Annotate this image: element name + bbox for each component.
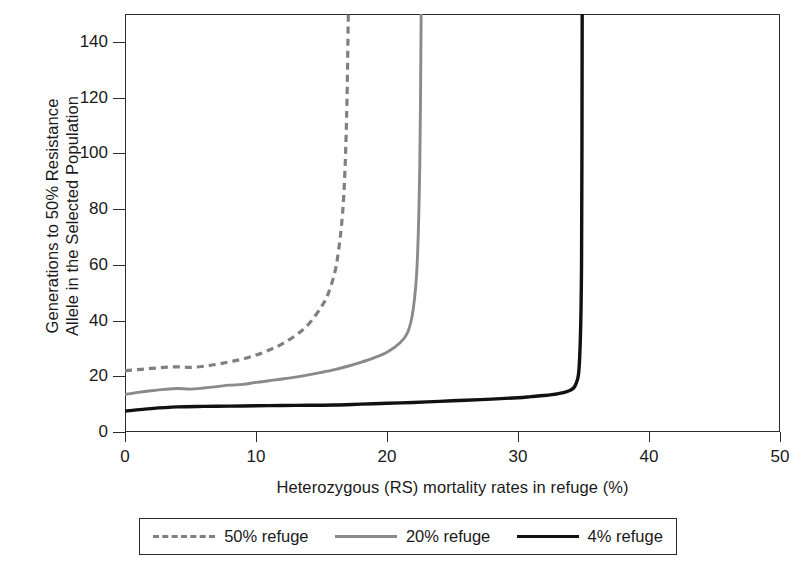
legend-entry: 4% refuge [517,527,663,546]
caption-sliver [0,566,804,575]
x-tick-mark [125,432,126,442]
legend-swatch [517,535,579,538]
y-tick-label: 40 [38,312,108,329]
x-tick-mark [256,432,257,442]
y-tick-label: 100 [38,144,108,161]
legend-label: 20% refuge [406,527,490,546]
x-tick-label: 10 [226,448,286,465]
y-tick-label: 80 [38,200,108,217]
y-tick-label: 120 [38,89,108,106]
figure-container: Generations to 50% Resistance Allele in … [0,0,804,575]
x-tick-label: 50 [750,448,804,465]
plot-curves [125,14,780,432]
x-axis-title: Heterozygous (RS) mortality rates in ref… [125,478,780,497]
y-tick-label: 60 [38,256,108,273]
legend-label: 50% refuge [224,527,308,546]
legend-swatch [153,535,215,538]
x-tick-mark [780,432,781,442]
series-line [125,14,421,394]
legend-entry: 20% refuge [335,527,490,546]
legend-label: 4% refuge [588,527,663,546]
x-tick-mark [518,432,519,442]
legend: 50% refuge20% refuge4% refuge [139,518,677,555]
x-tick-mark [649,432,650,442]
series-line [125,14,349,371]
y-tick-label: 140 [38,33,108,50]
series-line [125,14,582,411]
y-tick-label: 20 [38,367,108,384]
legend-entry: 50% refuge [153,527,308,546]
y-tick-label: 0 [38,423,108,440]
x-tick-label: 40 [619,448,679,465]
legend-swatch [335,535,397,538]
x-tick-label: 20 [357,448,417,465]
x-tick-mark [387,432,388,442]
x-tick-label: 0 [95,448,155,465]
x-tick-label: 30 [488,448,548,465]
